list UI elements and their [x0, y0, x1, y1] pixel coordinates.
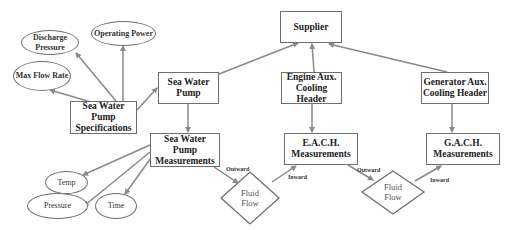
swp-specifications-node: Sea Water Pump Specifications	[70, 101, 137, 134]
operating-power-attr: Operating Power	[91, 21, 156, 46]
discharge-pressure-attr: Discharge Pressure	[21, 30, 79, 55]
edge-label-inward-1: Inward	[288, 174, 307, 180]
sea-water-pump-node: Sea Water Pump	[158, 72, 219, 104]
supplier-node: Supplier	[280, 11, 342, 43]
swp-measurements-node: Sea Water Pump Measurements	[150, 133, 220, 167]
fluid-flow-label-2: Fluid Flow	[378, 182, 408, 202]
fluid-flow-label-1: Fluid Flow	[235, 188, 265, 208]
edge-label-inward-2: Inward	[430, 177, 449, 183]
generator-aux-cooling-header-node: Generator Aux. Cooling Header	[421, 72, 489, 104]
edge-label-outward-2: Outward	[357, 167, 380, 173]
engine-aux-cooling-header-node: Engine Aux. Cooling Header	[281, 72, 342, 104]
temp-attr: Temp	[45, 171, 88, 194]
max-flow-rate-attr: Max Flow Rate	[13, 61, 71, 91]
each-measurements-node: E.A.C.H. Measurements	[284, 133, 358, 165]
edge-label-outward-1: Outward	[226, 166, 249, 172]
pressure-attr: Pressure	[27, 193, 88, 219]
time-attr: Time	[95, 193, 137, 219]
gach-measurements-node: G.A.C.H. Measurements	[426, 133, 500, 165]
